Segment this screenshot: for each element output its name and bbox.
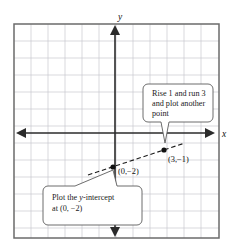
callout2-post: -intercept: [83, 193, 115, 202]
rise-run-callout-line-3: point: [152, 109, 170, 118]
x-axis-label: x: [221, 129, 227, 139]
point-label-second: (3,−1): [168, 155, 189, 164]
y-intercept-callout-line-2: at (0, −2): [52, 204, 83, 213]
coordinate-plane-svg: y x (0,−2) (3,−1) Rise 1 and run 3 and p…: [0, 0, 241, 248]
rise-run-callout-line-2: and plot another: [152, 99, 205, 108]
point-label-y-intercept: (0,−2): [118, 167, 139, 176]
y-intercept-callout-line-1: Plot the y-intercept: [52, 193, 115, 202]
point-y-intercept: [110, 164, 115, 169]
y-axis-label: y: [117, 12, 123, 22]
point-second: [161, 147, 166, 152]
rise-run-callout-line-1: Rise 1 and run 3: [152, 89, 206, 98]
graph-figure: y x (0,−2) (3,−1) Rise 1 and run 3 and p…: [0, 0, 241, 248]
callout2-pre: Plot the: [52, 193, 79, 202]
